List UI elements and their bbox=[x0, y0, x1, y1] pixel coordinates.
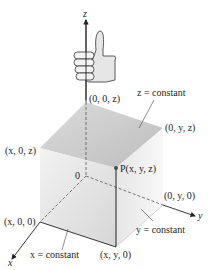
label-x-y-0: (x, y, 0) bbox=[100, 249, 131, 261]
cylindrical-coordinate-diagram: z x y 0 (0, 0, z) (0, y, z) (x, 0, z) P(… bbox=[0, 0, 208, 270]
x-plane-leader bbox=[62, 229, 68, 250]
label-x-0-z: (x, 0, z) bbox=[5, 145, 36, 157]
label-P: P(x, y, z) bbox=[120, 163, 156, 175]
z-axis-label: z bbox=[82, 8, 87, 19]
y-axis bbox=[163, 205, 195, 216]
label-0-y-z: (0, y, z) bbox=[165, 122, 195, 134]
label-0-y-0: (0, y, 0) bbox=[164, 190, 195, 202]
label-x-0-0: (x, 0, 0) bbox=[4, 216, 36, 228]
z-plane-label: z = constant bbox=[137, 87, 186, 98]
point-P bbox=[114, 166, 118, 170]
right-hand-thumbs-up-icon bbox=[74, 20, 116, 100]
origin-label: 0 bbox=[75, 170, 80, 181]
x-plane-label: x = constant bbox=[30, 249, 79, 260]
y-axis-label: y bbox=[197, 210, 203, 221]
label-0-0-z: (0, 0, z) bbox=[89, 93, 120, 105]
x-axis-label: x bbox=[7, 257, 13, 268]
y-plane-label: y = constant bbox=[136, 224, 185, 235]
